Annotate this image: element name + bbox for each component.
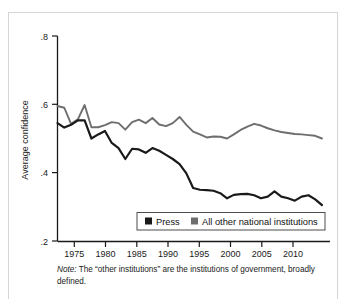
chart-legend: Press All other national institutions [137, 213, 325, 231]
line-chart: .8 .6 .4 .2 Average confidence 1975 1980… [0, 0, 347, 301]
note-body: The “other institutions” are the institu… [57, 265, 315, 286]
y-axis-title: Average confidence [20, 100, 30, 179]
x-tick-label-1990: 1990 [158, 249, 178, 259]
x-tick-label-2010: 2010 [283, 249, 303, 259]
legend-label-press: Press [156, 217, 180, 227]
chart-figure: .8 .6 .4 .2 Average confidence 1975 1980… [0, 0, 347, 301]
x-tick-label-1985: 1985 [127, 249, 147, 259]
x-tick-label-1975: 1975 [64, 249, 84, 259]
legend-swatch-all-other [191, 218, 198, 225]
figure-page: .8 .6 .4 .2 Average confidence 1975 1980… [0, 0, 347, 301]
x-axis-ticks [74, 242, 293, 248]
y-axis-ticks [52, 36, 58, 241]
legend-label-all-other: All other national institutions [202, 217, 318, 227]
x-tick-label-2005: 2005 [252, 249, 272, 259]
y-tick-label-1: .6 [40, 100, 48, 110]
note-prefix: Note: [57, 265, 77, 274]
x-tick-label-1995: 1995 [189, 249, 209, 259]
legend-swatch-press [145, 218, 152, 225]
series-line-all-other-national-institutions [58, 105, 323, 138]
y-tick-label-0: .8 [40, 32, 48, 42]
y-tick-label-2: .4 [40, 168, 48, 178]
y-tick-label-3: .2 [40, 237, 48, 247]
x-tick-label-2000: 2000 [220, 249, 240, 259]
figure-note: Note: The “other institutions” are the i… [57, 264, 329, 287]
x-tick-label-1980: 1980 [95, 249, 115, 259]
